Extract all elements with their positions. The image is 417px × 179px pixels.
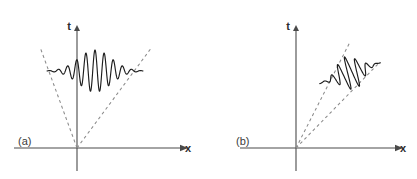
- panel-label: (a): [18, 135, 31, 147]
- wave-packet-spreading: [47, 50, 143, 91]
- t-axis-label: t: [67, 20, 71, 32]
- t-axis-label: t: [286, 20, 290, 32]
- wave-packet-boosted: [320, 57, 381, 89]
- panel-b: xt(b): [236, 20, 407, 171]
- panel-label: (b): [236, 135, 249, 147]
- x-axis-label: x: [400, 142, 407, 154]
- figure-container: xt(a)xt(b): [0, 0, 417, 179]
- left-light-cone: [40, 47, 77, 148]
- panel-a: xt(a): [14, 20, 192, 171]
- t-axis-arrowhead: [74, 25, 80, 31]
- spacetime-wavepacket-figure: xt(a)xt(b): [0, 0, 417, 179]
- upper-light-cone: [296, 42, 350, 148]
- lower-light-cone: [296, 62, 380, 148]
- t-axis-arrowhead: [293, 25, 299, 31]
- x-axis-label: x: [185, 142, 192, 154]
